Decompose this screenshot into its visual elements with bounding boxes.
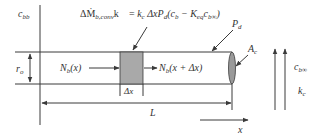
cross-section-area-label: Ac — [247, 43, 258, 56]
axis-label: x — [237, 124, 243, 135]
flux-in-label: Nb(x) — [59, 62, 82, 75]
fiber-mass-balance-diagram: cbb ro Nb(x) Nb(x + Δx) Δx L x Pd Ac cb∞… — [0, 0, 321, 138]
far-concentration-label: cb∞ — [294, 61, 307, 74]
convective-mass-transfer-equation: ΔṀb,convk — [80, 8, 119, 21]
area-pointer-arrow — [236, 55, 248, 66]
equation-rhs: = kc ΔxPd(cb − Keqcb∞) — [129, 8, 220, 21]
equation-pointer-arrow — [133, 27, 147, 50]
element-width-label: Δx — [123, 86, 133, 96]
mass-transfer-coefficient-label: kc — [298, 85, 306, 98]
bulk-concentration-label: cbb — [18, 8, 30, 21]
radius-label: ro — [16, 63, 24, 76]
cylinder-end-cap — [229, 52, 236, 84]
perimeter-pointer-arrow — [212, 30, 233, 51]
flux-out-label: Nb(x + Δx) — [158, 62, 203, 75]
length-label: L — [149, 107, 156, 118]
differential-element — [120, 52, 143, 84]
perimeter-label: Pd — [231, 18, 242, 31]
